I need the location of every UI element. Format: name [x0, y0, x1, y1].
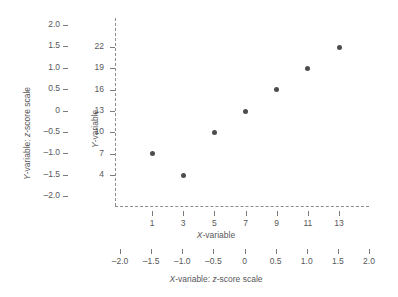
x-zscore-title-tail: -score scale	[217, 274, 263, 284]
y-tick-label: 7	[71, 149, 104, 158]
x-zscore-tick-label: 2.0	[349, 257, 389, 266]
x-tick-mark	[339, 211, 340, 216]
y-tick-label: 16	[71, 85, 104, 94]
y-zscore-tick-label: 2.0	[22, 20, 60, 29]
y-zscore-axis-title: Y-variable: z-score scale	[22, 87, 32, 180]
y-zscore-title-tail: -score scale	[22, 87, 32, 133]
x-tick-mark	[246, 211, 247, 216]
y-tick-mark	[110, 175, 115, 176]
y-tick-label: 4	[71, 170, 104, 179]
y-zscore-tick-mark	[63, 89, 68, 90]
y-axis-title-rest: -variable	[90, 110, 100, 143]
x-zscore-title-mid: -variable:	[175, 274, 212, 284]
y-tick-mark	[110, 132, 115, 133]
x-zscore-tick-mark	[338, 249, 339, 254]
x-axis-line	[115, 206, 369, 207]
x-tick-mark	[277, 211, 278, 216]
y-zscore-tick-mark	[63, 25, 68, 26]
data-point	[150, 151, 155, 156]
x-axis-title: X-variable	[0, 230, 398, 240]
x-axis-title-rest: -variable	[203, 230, 236, 240]
y-axis-title: Y-variable	[90, 110, 100, 148]
x-zscore-tick-mark	[182, 249, 183, 254]
data-point	[337, 45, 342, 50]
data-point	[243, 109, 248, 114]
y-tick-label: 19	[71, 63, 104, 72]
y-tick-mark	[110, 154, 115, 155]
y-zscore-tick-mark	[63, 196, 68, 197]
y-zscore-tick-label: 1.0	[22, 63, 60, 72]
y-tick-label: 22	[71, 42, 104, 51]
x-zscore-tick-mark	[151, 249, 152, 254]
x-zscore-tick-mark	[120, 249, 121, 254]
y-axis-title-symbol: Y	[90, 142, 100, 148]
x-tick-mark	[308, 211, 309, 216]
y-zscore-tick-mark	[63, 46, 68, 47]
y-zscore-tick-label: –2.0	[22, 191, 60, 200]
y-zscore-tick-mark	[63, 68, 68, 69]
y-tick-mark	[110, 90, 115, 91]
y-zscore-title-mid: -variable:	[22, 137, 32, 174]
data-point	[305, 66, 310, 71]
y-axis-line	[115, 18, 116, 206]
data-point	[274, 87, 279, 92]
x-tick-mark	[214, 211, 215, 216]
y-zscore-tick-mark	[63, 132, 68, 133]
x-zscore-tick-mark	[369, 249, 370, 254]
y-zscore-tick-mark	[63, 111, 68, 112]
data-point	[181, 173, 186, 178]
x-tick-label: 13	[319, 219, 359, 228]
x-zscore-tick-mark	[276, 249, 277, 254]
y-tick-mark	[110, 111, 115, 112]
x-zscore-tick-mark	[307, 249, 308, 254]
y-tick-mark	[110, 47, 115, 48]
x-tick-mark	[183, 211, 184, 216]
y-zscore-title-symbol: Y	[22, 174, 32, 180]
y-zscore-title-z: z	[22, 133, 32, 137]
x-zscore-tick-mark	[213, 249, 214, 254]
y-zscore-tick-mark	[63, 175, 68, 176]
x-zscore-axis-title: X-variable: z-score scale	[0, 274, 398, 284]
x-zscore-tick-mark	[245, 249, 246, 254]
y-tick-mark	[110, 68, 115, 69]
scatter-plot-figure: 221916131074 2.01.51.00.50–0.5–1.0–1.5–2…	[0, 0, 398, 297]
y-zscore-tick-mark	[63, 153, 68, 154]
y-zscore-tick-label: 1.5	[22, 41, 60, 50]
x-tick-mark	[152, 211, 153, 216]
data-point	[212, 130, 217, 135]
